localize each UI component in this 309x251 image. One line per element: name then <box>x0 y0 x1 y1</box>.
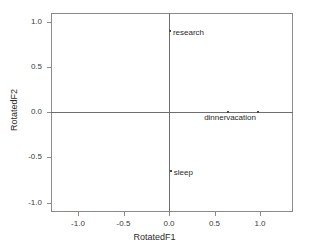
data-point-label: vacation <box>226 113 256 122</box>
y-tick <box>47 67 51 68</box>
y-tick <box>47 112 51 113</box>
x-tick <box>169 212 170 216</box>
x-tick-label: -1.0 <box>58 219 98 228</box>
x-tick-label: 0.5 <box>195 219 235 228</box>
y-tick <box>47 203 51 204</box>
data-point-label: sleep <box>174 168 193 177</box>
x-tick-label: 0.0 <box>149 219 189 228</box>
x-tick <box>215 212 216 216</box>
x-tick-label: -0.5 <box>104 219 144 228</box>
x-tick-label: 1.0 <box>240 219 280 228</box>
data-point-label: research <box>173 28 204 37</box>
data-point-marker <box>257 111 259 113</box>
y-axis-title: RotatedF2 <box>9 65 19 155</box>
scatter-plot: -1.0-0.50.00.51.0 1.00.50.0-0.5-1.0 rese… <box>0 0 309 251</box>
data-point-marker <box>169 30 171 32</box>
data-point-marker <box>170 170 172 172</box>
y-tick-label: 1.0 <box>12 17 42 26</box>
y-tick-label: -1.0 <box>12 198 42 207</box>
x-axis-title: RotatedF1 <box>0 232 309 242</box>
x-tick <box>78 212 79 216</box>
y-tick <box>47 22 51 23</box>
x-tick <box>260 212 261 216</box>
y-tick <box>47 157 51 158</box>
x-tick <box>124 212 125 216</box>
data-point-label: dinner <box>204 113 226 122</box>
